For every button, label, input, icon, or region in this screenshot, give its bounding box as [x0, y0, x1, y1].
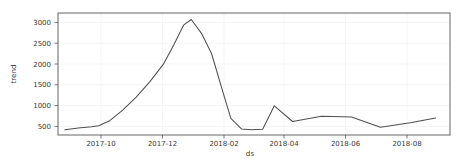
- xtick-label-2017-12: 2017-12: [148, 140, 177, 148]
- ytick-label-1500: 1500: [33, 81, 51, 89]
- ytick-label-1000: 1000: [33, 102, 51, 110]
- xtick-label-2018-06: 2018-06: [331, 140, 361, 148]
- ytick-label-2000: 2000: [33, 61, 51, 69]
- ytick-label-3000: 3000: [33, 19, 51, 27]
- xtick-label-2018-08: 2018-08: [392, 140, 421, 148]
- xtick-label-2018-02: 2018-02: [209, 140, 238, 148]
- y-axis-label: trend: [9, 64, 18, 83]
- trend-line-chart: 3000 2500 2000 1500 1000 500 2017-10 201…: [0, 0, 468, 168]
- ytick-label-2500: 2500: [33, 40, 51, 48]
- x-axis-label: ds: [246, 149, 255, 158]
- ytick-label-500: 500: [38, 123, 51, 131]
- xtick-label-2018-04: 2018-04: [269, 140, 299, 148]
- chart-screenshot: 3000 2500 2000 1500 1000 500 2017-10 201…: [0, 0, 468, 168]
- xtick-label-2017-10: 2017-10: [86, 140, 115, 148]
